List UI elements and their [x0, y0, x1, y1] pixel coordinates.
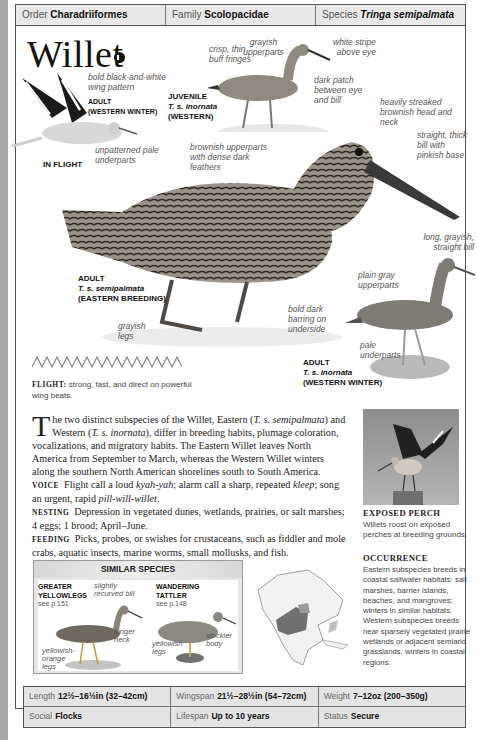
flight-pattern-zigzag — [32, 356, 182, 368]
voice-heading: VOICE — [32, 481, 59, 490]
similar-species-wandering-tattler[interactable]: WANDERING TATTLER see p.148 — [156, 583, 200, 609]
range-map — [248, 565, 358, 673]
exposed-perch-photo — [363, 409, 459, 505]
label-heavily-streaked: heavily streaked brownish head and neck — [380, 97, 460, 127]
similar-species-heading: SIMILAR SPECIES — [34, 561, 242, 578]
feeding-heading: FEEDING — [32, 535, 70, 544]
occurrence-heading: OCCURRENCE — [363, 553, 428, 563]
species-cell: Species Tringa semipalmata — [316, 5, 465, 25]
stat-status: StatusSecure — [319, 707, 465, 727]
label-wing-pattern: bold black-and-white wing pattern — [88, 72, 178, 92]
drop-cap: T — [32, 414, 50, 438]
label-brownish-upperparts: brownish upperparts with dense dark feat… — [190, 142, 275, 172]
label-pale-underparts: pale underparts — [360, 340, 400, 360]
photo-caption: Willets roost on exposed perches at bree… — [363, 520, 468, 540]
family-label: Family — [172, 9, 201, 20]
family-value: Scolopacidae — [204, 9, 268, 20]
order-cell: Order Charadriiformes — [16, 5, 166, 25]
stat-lifespan: LifespanUp to 10 years — [171, 707, 318, 727]
stats-row-measurements: Length12½–16½in (32–42cm) Wingspan21½–28… — [24, 687, 465, 707]
adult-eastern-caption: ADULT T. s. semipalmata (EASTERN BREEDIN… — [78, 274, 166, 304]
family-cell: Family Scolopacidae — [166, 5, 316, 25]
page-gutter — [0, 0, 8, 740]
occurrence-text: Eastern subspecies breeds in coastal sal… — [363, 565, 473, 668]
order-label: Order — [22, 9, 48, 20]
label-straight-bill: straight, thick bill with pinkish base — [417, 130, 472, 160]
photo-title: EXPOSED PERCH — [363, 508, 440, 518]
label-recurved-bill: slightly recurved bill — [94, 582, 139, 598]
similar-species-greater-yellowlegs[interactable]: GREATER YELLOWLEGS see p.151 — [38, 583, 87, 609]
label-white-stripe: white stripe above eye — [328, 37, 376, 57]
stat-social: SocialFlocks — [24, 707, 171, 727]
flight-description: FLIGHT: strong, fast, and direct on powe… — [32, 379, 192, 401]
label-yellowish-orange-legs: yellowish-orange legs — [42, 647, 78, 671]
similar-species-panel: SIMILAR SPECIES GREATER YELLOWLEGS see p… — [33, 560, 243, 674]
stat-weight: Weight7–12oz (200–350g) — [319, 687, 465, 706]
stat-wingspan: Wingspan21½–28½in (54–72cm) — [171, 687, 318, 706]
species-label: Species — [322, 9, 358, 20]
nesting-heading: NESTING — [32, 508, 69, 517]
adult-western-caption: ADULT T. s. inornata (WESTERN WINTER) — [303, 358, 382, 388]
juvenile-caption: JUVENILE T. s. inornata (WESTERN) — [168, 92, 217, 122]
label-yellowish-legs: yellowish legs — [152, 640, 184, 656]
stat-length: Length12½–16½in (32–42cm) — [24, 687, 171, 706]
order-value: Charadriiformes — [50, 9, 127, 20]
species-description: The two distinct subspecies of the Wille… — [32, 413, 347, 559]
perched-willet-image — [363, 409, 459, 505]
label-grayish-upperparts: grayish upperparts — [241, 37, 286, 57]
label-dark-patch: dark patch between eye and bill — [314, 75, 364, 105]
flight-adult-caption: ADULT (WESTERN WINTER) — [88, 97, 157, 117]
label-long-bill: long, grayish, straight bill — [416, 232, 474, 252]
label-stockier-body: stockier body — [206, 632, 238, 648]
species-value: Tringa semipalmata — [360, 9, 454, 20]
label-bold-barring: bold dark barring on underside — [288, 304, 333, 334]
taxonomy-bar: Order Charadriiformes Family Scolopacida… — [15, 4, 466, 26]
sound-icon[interactable] — [114, 52, 125, 63]
stats-row-behavior: SocialFlocks LifespanUp to 10 years Stat… — [24, 707, 465, 727]
label-longer-neck: longer neck — [114, 628, 144, 644]
species-stats-table: Length12½–16½in (32–42cm) Wingspan21½–28… — [23, 686, 466, 728]
label-grayish-legs: grayish legs — [118, 321, 148, 341]
label-plain-gray: plain gray upperparts — [358, 270, 403, 290]
similar-species-content: GREATER YELLOWLEGS see p.151 slightly re… — [38, 580, 238, 671]
